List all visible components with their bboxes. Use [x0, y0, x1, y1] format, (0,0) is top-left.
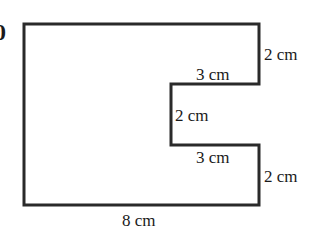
label-notch-bottom: 3 cm — [196, 148, 230, 167]
label-right-top: 2 cm — [264, 45, 298, 64]
notched-rectangle-outline — [24, 24, 259, 205]
label-notch-inner: 2 cm — [175, 106, 209, 125]
composite-shape-diagram: 0 2 cm 3 cm 2 cm 3 cm 2 cm 8 cm — [0, 0, 320, 249]
label-notch-top: 3 cm — [196, 65, 230, 84]
label-right-bottom: 2 cm — [264, 167, 298, 186]
question-number-fragment: 0 — [0, 19, 6, 45]
label-bottom: 8 cm — [122, 211, 156, 230]
